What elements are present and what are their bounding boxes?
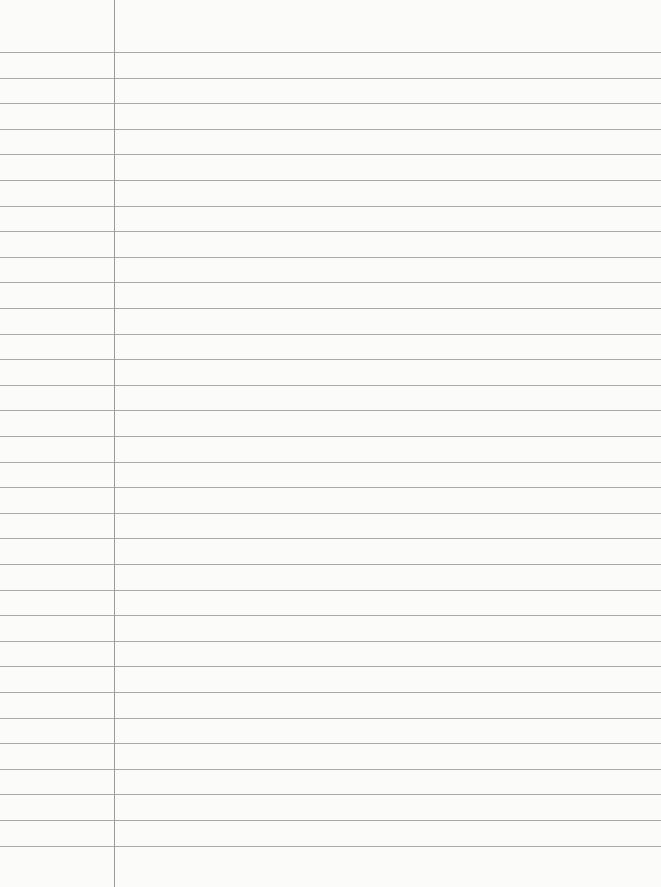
ruled-line <box>0 718 661 719</box>
ruled-line <box>0 52 661 53</box>
ruled-line <box>0 334 661 335</box>
ruled-line <box>0 129 661 130</box>
ruled-line <box>0 385 661 386</box>
ruled-line <box>0 487 661 488</box>
ruled-line <box>0 257 661 258</box>
ruled-line <box>0 359 661 360</box>
ruled-line <box>0 206 661 207</box>
ruled-line <box>0 410 661 411</box>
ruled-line <box>0 282 661 283</box>
ruled-line <box>0 103 661 104</box>
ruled-line <box>0 564 661 565</box>
margin-line <box>114 0 115 887</box>
ruled-line <box>0 308 661 309</box>
ruled-line <box>0 462 661 463</box>
ruled-line <box>0 846 661 847</box>
ruled-line <box>0 820 661 821</box>
ruled-line <box>0 513 661 514</box>
ruled-line <box>0 78 661 79</box>
ruled-line <box>0 590 661 591</box>
ruled-line <box>0 692 661 693</box>
ruled-line <box>0 743 661 744</box>
ruled-line <box>0 769 661 770</box>
ruled-line <box>0 180 661 181</box>
ruled-line <box>0 666 661 667</box>
ruled-line <box>0 231 661 232</box>
ruled-line <box>0 436 661 437</box>
ruled-line <box>0 615 661 616</box>
ruled-line <box>0 641 661 642</box>
ruled-line <box>0 794 661 795</box>
ruled-line <box>0 538 661 539</box>
ruled-line <box>0 154 661 155</box>
